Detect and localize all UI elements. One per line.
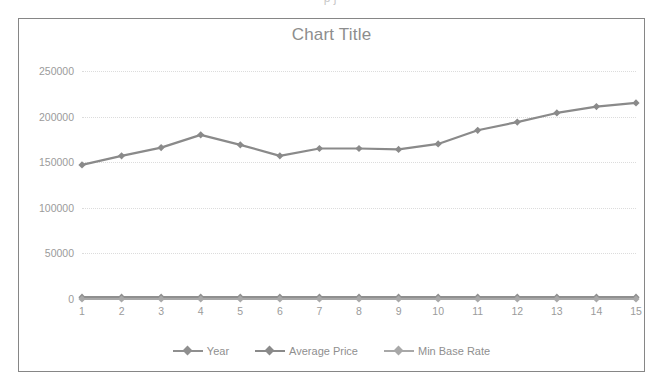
data-point-marker xyxy=(276,152,283,159)
data-point-marker xyxy=(593,103,600,110)
series-layer xyxy=(19,19,644,371)
legend-item-year[interactable]: Year xyxy=(173,345,229,357)
legend-item-min-base-rate[interactable]: Min Base Rate xyxy=(384,345,490,357)
data-point-marker xyxy=(197,131,204,138)
legend-swatch-icon xyxy=(384,346,414,356)
data-point-marker xyxy=(435,140,442,147)
data-point-marker xyxy=(474,127,481,134)
plot-area: 250000200000150000100000500000 123456789… xyxy=(19,19,644,371)
legend-diamond-marker-icon xyxy=(182,346,192,356)
chart-container: Chart Title 2500002000001500001000005000… xyxy=(18,18,645,372)
series-line xyxy=(82,103,636,165)
data-point-marker xyxy=(355,145,362,152)
legend-swatch-icon xyxy=(173,346,203,356)
legend-swatch-icon xyxy=(255,346,285,356)
legend-item-average-price[interactable]: Average Price xyxy=(255,345,358,357)
data-point-marker xyxy=(395,146,402,153)
legend-label: Average Price xyxy=(289,345,358,357)
data-point-marker xyxy=(78,161,85,168)
data-point-marker xyxy=(514,118,521,125)
legend-diamond-marker-icon xyxy=(265,346,275,356)
data-point-marker xyxy=(553,109,560,116)
legend-label: Year xyxy=(207,345,229,357)
chart-legend: YearAverage PriceMin Base Rate xyxy=(19,345,644,357)
series-average-price xyxy=(78,99,639,168)
data-point-marker xyxy=(237,141,244,148)
data-point-marker xyxy=(118,152,125,159)
clipped-header-text: p j xyxy=(0,0,660,5)
legend-diamond-marker-icon xyxy=(394,346,404,356)
legend-label: Min Base Rate xyxy=(418,345,490,357)
data-point-marker xyxy=(316,145,323,152)
data-point-marker xyxy=(632,99,639,106)
data-point-marker xyxy=(158,144,165,151)
